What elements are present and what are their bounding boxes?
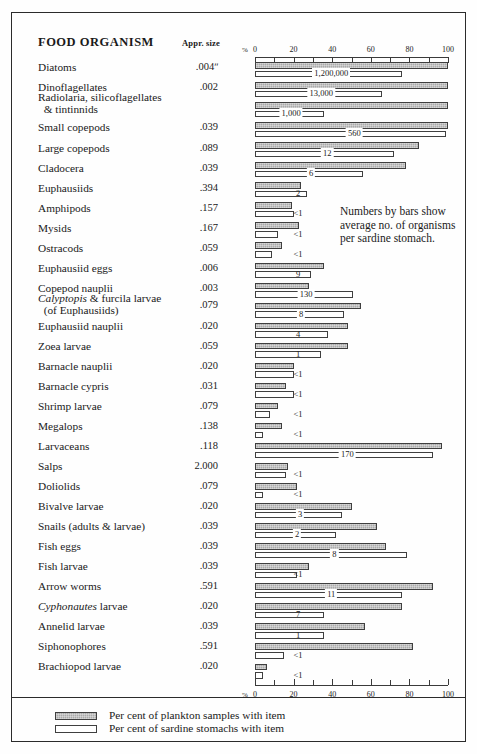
row-label-organism: Calyptopis & furcila larvae (of Euphausi…: [38, 293, 161, 316]
axis-tick-label: 40: [328, 690, 336, 699]
row-label-organism: Euphausiids: [38, 182, 93, 194]
row-value-approx-size: .031: [150, 380, 218, 391]
bar-sardine: [255, 371, 294, 378]
row-label-organism: Arrow worms: [38, 580, 101, 592]
bar-plankton: [255, 623, 365, 630]
row-value-approx-size: .039: [150, 520, 218, 531]
row-value-approx-size: .020: [150, 600, 218, 611]
axis-tick-label: 0: [253, 690, 257, 699]
bar-sardine: [255, 231, 278, 238]
row-value-approx-size: .004ʺ: [150, 61, 218, 72]
bar-plankton: [255, 162, 406, 169]
row-label-organism: Cladocera: [38, 162, 84, 174]
row-value-approx-size: .089: [150, 142, 218, 153]
bar-plankton: [255, 323, 348, 330]
bar-plankton: [255, 643, 413, 650]
bar-plankton: [255, 423, 282, 430]
row-value-approx-size: .079: [150, 299, 218, 310]
axis-tick-label: 20: [290, 690, 298, 699]
row-value-approx-size: .039: [150, 620, 218, 631]
bar-value-label: 2: [296, 188, 300, 198]
row-label-organism: Larvaceans: [38, 440, 89, 452]
bar-sardine: [255, 492, 263, 499]
bar-value-label: 170: [339, 449, 356, 459]
bar-sardine: [255, 632, 324, 639]
bar-plankton: [255, 363, 294, 370]
row-value-approx-size: .059: [150, 340, 218, 351]
row-value-approx-size: .020: [150, 320, 218, 331]
row-value-approx-size: .020: [150, 360, 218, 371]
bar-plankton: [255, 383, 286, 390]
axis-tick: [294, 679, 295, 685]
row-label-organism: Barnacle nauplii: [38, 360, 112, 372]
bar-value-label: 13,000: [308, 88, 335, 98]
axis-endcap: [448, 679, 449, 685]
row-value-approx-size: 2.000: [150, 460, 218, 471]
bar-sardine: [255, 251, 272, 258]
bar-sardine: [255, 472, 286, 479]
row-label-organism: Small copepods: [38, 121, 110, 133]
row-label-organism: Diatoms: [38, 61, 76, 73]
row-label-organism: Mysids: [38, 222, 71, 234]
row-value-approx-size: .591: [150, 580, 218, 591]
bar-plankton: [255, 263, 324, 270]
row-value-approx-size: .039: [150, 121, 218, 132]
bar-sardine: [255, 572, 297, 579]
bar-value-label: 12: [321, 148, 334, 158]
bar-value-label: 8: [330, 549, 338, 559]
axis-tick-label: 80: [405, 690, 413, 699]
bar-value-label: <1: [293, 650, 302, 660]
axis-tick-label: 0: [253, 45, 257, 54]
bar-value-label: 7: [296, 609, 300, 619]
bar-plankton: [255, 463, 288, 470]
row-value-approx-size: .059: [150, 242, 218, 253]
row-label-organism: Megalops: [38, 420, 83, 432]
axis-tick: [352, 680, 353, 685]
row-label-organism: Zoea larvae: [38, 340, 91, 352]
axis-endcap: [255, 679, 256, 685]
bar-value-label: 6: [307, 168, 315, 178]
bar-plankton: [255, 82, 448, 89]
bar-plankton: [255, 242, 282, 249]
bar-value-label: 3: [296, 509, 304, 519]
bar-value-label: 4: [296, 329, 300, 339]
bar-value-label: 1,200,000: [312, 68, 350, 78]
axis-tick: [332, 679, 333, 685]
axis-tick: [313, 680, 314, 685]
bar-value-label: <1: [293, 469, 302, 479]
row-label-organism: Brachiopod larvae: [38, 660, 121, 672]
chart-annotation: Numbers by bars show average no. of orga…: [340, 205, 460, 246]
bar-value-label: <1: [293, 389, 302, 399]
bar-sardine: [255, 331, 328, 338]
legend-item-plankton: Per cent of plankton samples with item: [55, 709, 285, 722]
row-label-organism: Barnacle cypris: [38, 380, 109, 392]
legend-label-sardine: Per cent of sardine stomachs with item: [109, 722, 284, 735]
row-label-organism: Siphonophores: [38, 640, 106, 652]
bar-plankton: [255, 664, 267, 671]
bar-value-label: 560: [346, 128, 363, 138]
row-label-organism: Cyphonautes larvae: [38, 600, 127, 612]
bar-plankton: [255, 182, 301, 189]
row-label-organism: Fish larvae: [38, 560, 88, 572]
axis-tick: [409, 679, 410, 685]
chart-plate: FOOD ORGANISM Appr. size Numbers by bars…: [0, 0, 477, 754]
axis-tick-label: 40: [328, 45, 336, 54]
column-header-food-organism: FOOD ORGANISM: [38, 35, 154, 50]
bar-value-label: 1,000: [280, 108, 303, 118]
row-label-organism: Amphipods: [38, 202, 91, 214]
chart-legend: Per cent of plankton samples with item P…: [55, 709, 285, 735]
row-value-approx-size: .020: [150, 660, 218, 671]
bar-value-label: 1: [296, 349, 300, 359]
legend-item-sardine: Per cent of sardine stomachs with item: [55, 722, 285, 735]
column-header-approx-size: Appr. size: [182, 38, 220, 48]
bar-sardine: [255, 672, 263, 679]
axis-tick-label: 60: [367, 690, 375, 699]
bar-sardine: [255, 211, 294, 218]
bar-value-label: <1: [293, 409, 302, 419]
row-label-organism: Salps: [38, 460, 62, 472]
row-label-organism: Euphausiid nauplii: [38, 320, 123, 332]
bar-plankton: [255, 62, 448, 69]
row-label-organism: Radiolaria, silicoflagellates & tintinni…: [38, 92, 162, 115]
bar-value-label: 8: [297, 309, 305, 319]
row-value-approx-size: .118: [150, 440, 218, 451]
